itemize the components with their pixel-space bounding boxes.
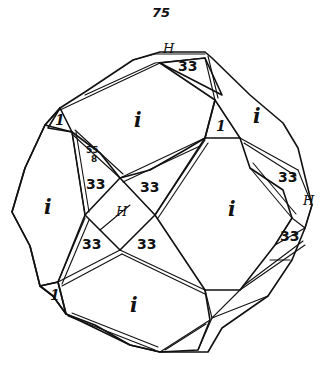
face-label-i: i	[253, 106, 261, 126]
figure-number: 75	[152, 6, 170, 19]
face-label-i: i	[134, 110, 142, 130]
face-label-55-sub: 8	[91, 155, 97, 164]
edge	[62, 254, 122, 286]
edge	[72, 313, 158, 347]
face-label-33: 33	[178, 59, 197, 73]
face-label-33: 33	[278, 170, 297, 184]
face-label-33: 33	[140, 180, 159, 194]
edge	[58, 218, 85, 282]
face-label-H: H	[163, 42, 174, 55]
edge	[240, 245, 305, 290]
outline-edge	[12, 52, 312, 352]
crystal-diagram	[0, 0, 321, 366]
face-label-33: 33	[82, 237, 101, 251]
face-label-33: 33	[280, 229, 299, 243]
edge	[160, 320, 210, 352]
edge	[58, 250, 120, 282]
face-label-1: 1	[55, 113, 65, 127]
face-label-i: i	[44, 197, 52, 217]
face-label-33: 33	[86, 177, 105, 191]
face-label-i: i	[228, 199, 236, 219]
edge	[60, 63, 160, 110]
face-label-1: 1	[216, 119, 226, 133]
face-label-33: 33	[137, 237, 156, 251]
face-label-1: 1	[50, 288, 60, 302]
edge	[122, 254, 205, 294]
edge	[62, 220, 89, 284]
edge	[68, 316, 155, 350]
face-label-H: H	[303, 194, 314, 207]
face-label-H: H	[116, 205, 127, 218]
face-label-i: i	[130, 295, 138, 315]
